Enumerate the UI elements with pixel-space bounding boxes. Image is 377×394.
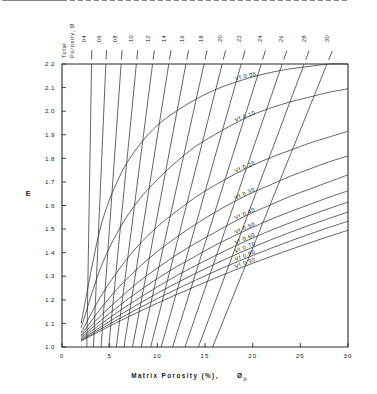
total-porosity-line [151, 64, 223, 347]
y-axis-tick-label: 1.1 [45, 320, 55, 327]
vf-curve [81, 221, 348, 340]
total-porosity-label: .22 [236, 35, 242, 44]
total-porosity-line [141, 64, 204, 347]
total-porosity-tick [169, 50, 170, 59]
total-porosity-label: .18 [198, 35, 204, 44]
axes-group [62, 64, 348, 347]
total-porosity-tick [284, 51, 287, 60]
top-axis-title-line1: Total [61, 43, 67, 58]
x-axis-tick-label: 5 [107, 352, 111, 359]
total-porosity-tick [329, 51, 333, 60]
total-porosity-label: .24 [257, 35, 263, 44]
total-porosity-line [185, 64, 282, 347]
total-porosity-tick [187, 50, 189, 59]
x-axis-tick-label: 25 [296, 352, 305, 359]
plot-frame [62, 64, 348, 347]
y-axis-tick-label: 1.2 [45, 296, 55, 303]
total-porosity-label: .14 [161, 35, 167, 44]
villeroy-marker-label: VILLEROY 2 [3, 0, 47, 1]
vf-curve-label: Vf 0.05 [234, 71, 257, 82]
total-porosity-tick [306, 51, 309, 60]
y-axis-tick-label: 1.3 [45, 272, 55, 279]
x-axis-tick-label: 20 [248, 352, 257, 359]
total-porosity-line [173, 64, 262, 347]
total-porosity-label: .28 [301, 35, 307, 44]
x-axis-title: Matrix Porosity (%), [131, 372, 219, 380]
total-porosity-tick [223, 50, 225, 59]
y-axis-tick-label: 1.5 [45, 225, 55, 232]
total-porosity-label: .12 [145, 35, 151, 44]
vf-curve-label: Vf 0.20 [234, 159, 257, 173]
vf-curve-labels-group: Vf 0.05Vf 0.10Vf 0.20Vf 0.30Vf 0.40Vf 0.… [234, 71, 258, 270]
total-porosity-tick [242, 51, 245, 60]
y-axis-tick-label: 2.0 [45, 107, 55, 114]
vf-curves-group [81, 64, 348, 341]
x-axis-tick-label: 30 [344, 352, 353, 359]
total-porosity-tick [205, 50, 207, 59]
x-axis-tick-label: 15 [201, 352, 210, 359]
x-axis-tick-label: 0 [60, 352, 64, 359]
y-axis-tick-label: 1.8 [45, 155, 55, 162]
vf-curve [81, 89, 348, 328]
x-axis-title-subscript: b [244, 377, 247, 382]
total-porosity-label: .20 [217, 35, 223, 44]
total-porosity-line [198, 64, 304, 347]
y-axis-tick-label: 1.6 [45, 202, 55, 209]
total-porosity-labels-group: .04.06.08.10.12.14.16.18.20.22.24.26.28.… [81, 35, 330, 44]
total-porosity-line [133, 64, 186, 347]
total-porosity-tick [121, 50, 122, 59]
top-axis-title-line2: Porosity, Ø [69, 23, 75, 58]
total-porosity-label: .10 [128, 35, 134, 44]
total-porosity-line [87, 64, 92, 347]
y-axis-tick-label: 2.2 [45, 60, 55, 67]
total-porosity-label: .04 [81, 35, 87, 44]
vf-curve-label: Vf 0.40 [234, 206, 256, 221]
total-porosity-label: .08 [112, 35, 118, 44]
total-porosity-label: .16 [179, 35, 185, 44]
annotations-group: VILLEROY 2 [2, 0, 348, 1]
y-axis-tick-label: 1.0 [45, 343, 55, 350]
total-porosity-label: .06 [96, 35, 102, 44]
nomogram-chart: 1.01.11.21.31.41.51.61.71.81.92.02.12.20… [0, 0, 377, 394]
total-porosity-tick [263, 51, 266, 60]
figure-container: 1.01.11.21.31.41.51.61.71.81.92.02.12.20… [0, 0, 377, 394]
y-axis-tick-label: 1.9 [45, 131, 55, 138]
total-porosity-line [161, 64, 241, 347]
vf-curve-label: Vf 0.10 [234, 109, 257, 123]
total-porosity-label: .26 [278, 35, 284, 44]
vf-curve [81, 230, 348, 341]
total-porosity-label: .30 [324, 35, 330, 44]
y-axis-title: E [26, 190, 31, 197]
total-porosity-tick [153, 50, 154, 59]
total-porosity-tick [137, 50, 138, 59]
y-axis-tick-label: 1.7 [45, 178, 55, 185]
vf-curve-label: Vf 0.30 [234, 186, 256, 201]
x-axis-title-symbol: Ø [237, 372, 243, 379]
y-axis-tick-label: 2.1 [45, 84, 55, 91]
y-axis-tick-label: 1.4 [45, 249, 55, 256]
x-axis-tick-label: 10 [153, 352, 162, 359]
